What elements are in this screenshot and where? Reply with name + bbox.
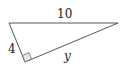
long-leg-label: y [63,49,71,63]
hypotenuse-label: 10 [57,7,72,21]
right-angle-marker [23,53,32,63]
short-leg-label: 4 [8,42,16,56]
triangle-diagram: 10 4 y [0,0,124,70]
